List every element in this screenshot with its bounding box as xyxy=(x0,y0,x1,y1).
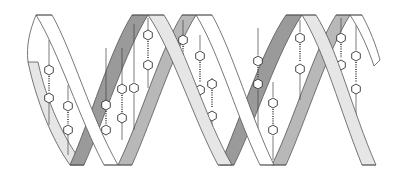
base-hexagon xyxy=(208,79,217,89)
base-hexagon xyxy=(254,56,263,66)
dna-helix-illustration: DNA double helix xyxy=(0,0,400,180)
base-hexagon xyxy=(296,64,305,74)
base-hexagon xyxy=(144,60,153,70)
base-hexagon xyxy=(64,101,73,111)
base-hexagon xyxy=(296,33,305,43)
base-hexagon xyxy=(254,79,263,89)
base-pair xyxy=(269,82,278,160)
base-hexagon xyxy=(118,84,127,94)
base-hexagon xyxy=(196,51,205,61)
strand-outline-left xyxy=(27,15,36,62)
base-hexagon xyxy=(118,113,127,123)
base-hexagon xyxy=(144,30,153,40)
base-hexagon xyxy=(352,51,361,61)
base-hexagon xyxy=(102,100,111,110)
base-hexagon xyxy=(179,35,188,45)
dna-helix-svg xyxy=(0,0,400,180)
base-hexagon xyxy=(352,84,361,94)
base-hexagon xyxy=(130,83,139,93)
base-hexagon xyxy=(102,125,111,135)
base-hexagon xyxy=(269,98,278,108)
base-hexagon xyxy=(269,125,278,135)
base-hexagon xyxy=(337,33,346,43)
base-hexagon xyxy=(45,65,54,75)
base-pair xyxy=(144,18,153,88)
base-hexagon xyxy=(45,93,54,103)
base-hexagon xyxy=(64,125,73,135)
